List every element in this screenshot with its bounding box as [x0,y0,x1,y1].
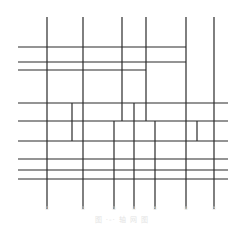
axis-label: ⑦ [212,205,216,211]
axis-label: ① [45,205,49,211]
axis-label: ⑥ [184,205,188,211]
grid-diagram [0,0,244,225]
figure-caption: 图 ·-· 轴 网 图 [0,214,244,224]
axis-label: ④ [132,205,136,211]
axis-label: ⑤ [153,205,157,211]
axis-label: ② [81,205,85,211]
axis-label: ③ [112,205,116,211]
